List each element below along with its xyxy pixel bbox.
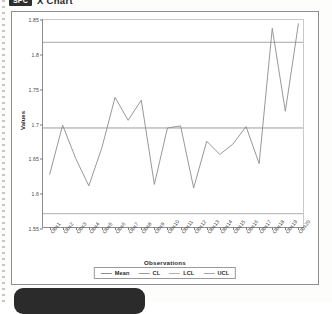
y-tick-label: 1.55: [29, 226, 44, 232]
y-tick-label: 1.75: [29, 87, 44, 93]
legend-item[interactable]: CL: [139, 270, 161, 276]
legend-label: UCL: [217, 270, 229, 276]
legend-swatch: [203, 273, 214, 274]
legend-item[interactable]: UCL: [203, 270, 229, 276]
legend-label: Mean: [115, 270, 130, 276]
page-heading: SPC X Chart: [9, 0, 73, 6]
page-title: X Chart: [37, 0, 73, 6]
chart-svg: [43, 20, 303, 227]
x-axis-title: Observations: [12, 259, 318, 266]
plot-area: 1.851.81.751.71.651.61.55 Obs1Obs2Obs3Ob…: [42, 19, 304, 228]
y-tick-label: 1.8: [31, 52, 43, 58]
legend-swatch: [101, 273, 112, 274]
binding-margin-dots: [2, 0, 5, 302]
legend-item[interactable]: LCL: [169, 270, 194, 276]
chart-legend: MeanCLLCLUCL: [94, 267, 236, 279]
legend-swatch: [169, 273, 180, 274]
legend-item[interactable]: Mean: [101, 270, 130, 276]
legend-swatch: [139, 273, 150, 274]
bottom-action-chip[interactable]: [14, 288, 145, 314]
y-tick-label: 1.7: [31, 122, 43, 128]
plot-canvas: [43, 20, 303, 227]
y-tick-label: 1.65: [29, 156, 44, 162]
legend-label: LCL: [183, 270, 194, 276]
legend-label: CL: [153, 270, 161, 276]
y-tick-label: 1.6: [31, 191, 43, 197]
y-axis-title: Values: [20, 111, 26, 130]
chart-frame: Values 1.851.81.751.71.651.61.55 Obs1Obs…: [11, 11, 319, 285]
heading-badge: SPC: [9, 0, 32, 6]
y-tick-label: 1.85: [29, 17, 44, 23]
